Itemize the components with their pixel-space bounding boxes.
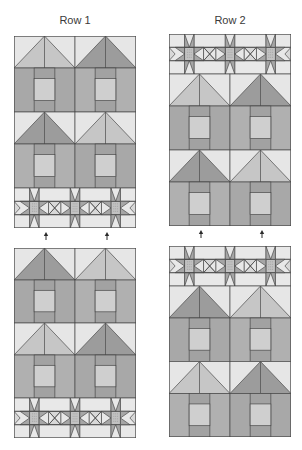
house-block-row — [169, 150, 291, 226]
quilt-panel-row2-top — [169, 34, 291, 226]
quilt-panel-row1-bottom — [14, 248, 136, 438]
star-block-strip — [14, 188, 136, 228]
star-block-strip — [169, 246, 291, 286]
star-block-strip — [169, 34, 291, 74]
house-block-row — [169, 74, 291, 150]
quilt-panel-row2-bottom — [169, 246, 291, 437]
quilt-panel-row1-top — [14, 36, 136, 228]
house-block-row — [169, 362, 291, 438]
star-block-strip — [14, 398, 136, 438]
house-block-row — [14, 36, 136, 112]
house-block-row — [14, 323, 136, 398]
house-block-row — [14, 248, 136, 323]
house-block-row — [14, 112, 136, 188]
row-1-title: Row 1 — [14, 14, 136, 26]
house-block-row — [169, 286, 291, 362]
row-2-title: Row 2 — [169, 14, 291, 26]
